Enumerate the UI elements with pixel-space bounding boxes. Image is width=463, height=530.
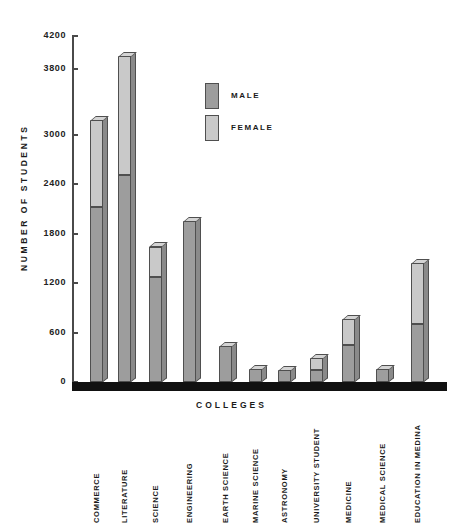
bar-earth-science: [219, 346, 232, 382]
x-axis-label-university-student: UNIVERSITY STUDENT: [312, 428, 321, 523]
x-axis-label-engineering: ENGINEERING: [185, 463, 194, 523]
x-axis-baseline: [72, 382, 447, 391]
y-axis-tick-label: 3800: [0, 63, 66, 73]
bar-segment-male: [310, 370, 323, 382]
y-axis-tick-label: 600: [0, 327, 66, 337]
bar-side-face: [162, 243, 167, 382]
x-axis-label-earth-science: EARTH SCIENCE: [221, 453, 230, 523]
x-axis-label-medical-science: MEDICAL SCIENCE: [378, 443, 387, 523]
bar-segment-female: [90, 120, 103, 207]
bar-segment-female: [342, 319, 355, 345]
x-axis-title: COLLEGES: [0, 400, 463, 410]
bar-side-face: [355, 315, 360, 382]
bar-segment-male: [278, 370, 291, 382]
y-axis-tick-label: 2400: [0, 178, 66, 188]
bar-side-face: [131, 52, 136, 382]
bar-education-in-medina: [411, 263, 424, 382]
bar-segment-female: [149, 247, 162, 278]
bar-segment-male: [342, 345, 355, 382]
bar-literature: [118, 56, 131, 382]
y-axis-tick-label: 1200: [0, 277, 66, 287]
x-axis-label-science: SCIENCE: [151, 485, 160, 523]
bar-medical-science: [376, 369, 389, 382]
bar-segment-female: [411, 263, 424, 325]
bar-side-face: [103, 116, 108, 382]
bar-segment-male: [411, 324, 424, 382]
bar-segment-male: [90, 207, 103, 382]
x-axis-label-commerce: COMMERCE: [92, 473, 101, 523]
x-axis-label-literature: LITERATURE: [120, 469, 129, 523]
legend-label-female: FEMALE: [231, 123, 274, 132]
bar-segment-female: [118, 56, 131, 175]
bar-astronomy: [278, 370, 291, 382]
bar-chart: NUMBER OF STUDENTS 060012001800240030003…: [0, 0, 463, 530]
y-axis-title: NUMBER OF STUDENTS: [19, 131, 29, 271]
bar-medicine: [342, 319, 355, 382]
plot-area: [72, 36, 447, 382]
y-axis-tick-label: 4200: [0, 30, 66, 40]
bar-segment-male: [219, 346, 232, 382]
y-axis-tick-label: 0: [0, 376, 66, 386]
legend-swatch-female-icon: [205, 115, 219, 141]
bar-university-student: [310, 358, 323, 382]
y-axis-tick-label: 3000: [0, 129, 66, 139]
bar-segment-female: [310, 358, 323, 370]
bar-side-face: [232, 342, 237, 382]
y-axis-tick-label: 1800: [0, 228, 66, 238]
bar-segment-male: [183, 221, 196, 382]
bar-segment-male: [149, 277, 162, 382]
bar-side-face: [196, 217, 201, 382]
legend-label-male: MALE: [231, 91, 260, 100]
bar-marine-science: [249, 369, 262, 382]
legend-swatch-male-icon: [205, 83, 219, 109]
bar-science: [149, 246, 162, 382]
x-axis-label-astronomy: ASTRONOMY: [280, 468, 289, 523]
x-axis-label-education-in-medina: EDUCATION IN MEDINA: [413, 424, 422, 523]
bar-segment-male: [249, 369, 262, 382]
bar-segment-male: [118, 175, 131, 382]
bar-segment-male: [376, 369, 389, 382]
x-axis-label-medicine: MEDICINE: [344, 481, 353, 523]
bar-commerce: [90, 120, 103, 382]
bar-engineering: [183, 221, 196, 382]
bar-side-face: [424, 259, 429, 382]
x-axis-label-marine-science: MARINE SCIENCE: [251, 448, 260, 523]
